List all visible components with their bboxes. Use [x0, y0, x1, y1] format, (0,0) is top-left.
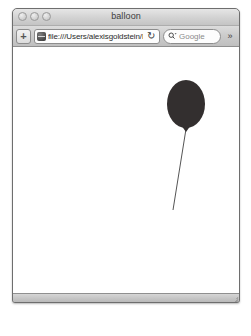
magnifier-icon [168, 32, 177, 40]
browser-window: balloon + file:///Users/alexisgoldstein/… [12, 8, 240, 303]
reload-icon[interactable]: ↻ [145, 29, 157, 44]
page-content-area [13, 47, 239, 293]
balloon-body-group [167, 80, 205, 132]
toolbar-overflow-chevron-icon[interactable]: » [224, 32, 236, 41]
balloon-body [167, 80, 205, 128]
resize-grip-icon[interactable] [229, 295, 238, 303]
add-tab-button[interactable]: + [16, 29, 31, 44]
window-title: balloon [13, 11, 239, 21]
search-input[interactable]: Google [179, 32, 205, 41]
url-address-bar[interactable]: file:///Users/alexisgoldstein/D ↻ [34, 29, 160, 44]
balloon-knot [181, 125, 191, 132]
status-bar [13, 293, 239, 303]
browser-toolbar: + file:///Users/alexisgoldstein/D ↻ Goog… [13, 26, 239, 47]
url-input[interactable]: file:///Users/alexisgoldstein/D [48, 32, 143, 41]
balloon-illustration [13, 47, 239, 293]
title-bar[interactable]: balloon [13, 9, 239, 26]
balloon-string [173, 129, 186, 210]
search-field[interactable]: Google [163, 29, 221, 44]
page-globe-icon [37, 32, 46, 41]
balloon-string-group [173, 129, 186, 210]
